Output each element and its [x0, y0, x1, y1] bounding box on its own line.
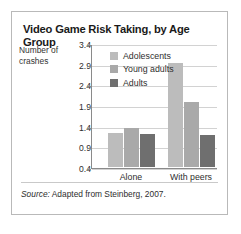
legend-item-adolescents[interactable]: Adolescents [110, 49, 174, 63]
gridline [92, 169, 217, 170]
y-axis-label: Number of crashes [19, 45, 67, 66]
figure-panel: Video Game Risk Taking, by Age Group Num… [11, 11, 228, 215]
x-axis-label-with-peers: With peers [151, 172, 231, 182]
legend-item-adults[interactable]: Adults [110, 76, 174, 90]
legend: AdolescentsYoung adultsAdults [110, 49, 174, 90]
legend-label: Adolescents [123, 51, 171, 61]
bar-group-with-peers [168, 44, 215, 167]
source-note: Source: Adapted from Steinberg, 2007. [21, 189, 166, 199]
bar-young-adults [184, 102, 199, 167]
y-axis-label-line-2: crashes [19, 56, 67, 67]
bar-adolescents [108, 133, 123, 167]
legend-swatch-icon [110, 79, 118, 87]
y-axis-tick-mark [87, 169, 91, 170]
legend-label: Young adults [123, 64, 174, 74]
legend-item-young-adults[interactable]: Young adults [110, 63, 174, 77]
bar-adults [140, 134, 155, 167]
bar-young-adults [124, 128, 139, 167]
y-axis-label-line-1: Number of [19, 45, 67, 56]
legend-label: Adults [123, 78, 147, 88]
source-text: Adapted from Steinberg, 2007. [50, 189, 166, 199]
source-keyword: Source: [21, 189, 50, 199]
legend-swatch-icon [110, 65, 118, 73]
bar-adults [200, 135, 215, 167]
legend-swatch-icon [110, 52, 118, 60]
source-divider [21, 182, 218, 183]
